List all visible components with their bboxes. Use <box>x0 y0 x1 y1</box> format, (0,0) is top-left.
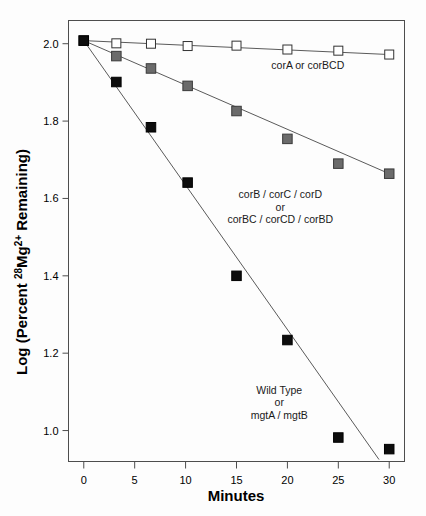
data-point-marker <box>232 41 241 50</box>
chart-figure: 1.01.21.41.61.82.0 051015202530 corA or … <box>0 0 426 516</box>
y-tick-label: 1.8 <box>43 115 58 127</box>
series-annotation-line: or <box>275 396 285 408</box>
data-point-marker <box>112 51 122 61</box>
y-tick-label: 2.0 <box>43 38 58 50</box>
data-point-marker <box>79 36 89 46</box>
series-annotation-line: corA or corBCD <box>271 59 344 71</box>
series-annotation-line: mgtA / mgtB <box>251 409 308 421</box>
data-point-marker <box>232 271 242 281</box>
data-point-marker <box>334 433 344 443</box>
x-axis-ticks: 051015202530 <box>81 462 396 486</box>
data-point-marker <box>183 178 193 188</box>
x-tick-label: 15 <box>230 474 242 486</box>
x-tick-label: 5 <box>132 474 138 486</box>
x-tick-label: 0 <box>81 474 87 486</box>
data-point-marker <box>283 45 292 54</box>
data-point-marker <box>384 169 394 179</box>
data-point-marker <box>146 64 156 74</box>
y-tick-label: 1.0 <box>43 425 58 437</box>
y-tick-label: 1.6 <box>43 192 58 204</box>
data-point-marker <box>183 42 192 51</box>
data-point-marker <box>183 81 193 91</box>
data-point-marker <box>112 77 122 87</box>
series-annotation-line: corB / corC / corD <box>239 188 323 200</box>
y-tick-label: 1.2 <box>43 347 58 359</box>
data-point-marker <box>112 39 121 48</box>
series-annotation-line: or <box>276 201 286 213</box>
data-marker-group <box>79 36 394 454</box>
data-point-marker <box>334 46 343 55</box>
series-annotation-line: corBC / corCD / corBD <box>227 213 333 225</box>
x-tick-label: 30 <box>383 474 395 486</box>
series-annotation-line: Wild Type <box>256 384 302 396</box>
trendline <box>84 41 379 460</box>
data-point-marker <box>146 123 156 133</box>
y-tick-label: 1.4 <box>43 270 58 282</box>
x-axis-title: Minutes <box>208 487 265 504</box>
data-point-marker <box>283 134 293 144</box>
x-tick-label: 20 <box>281 474 293 486</box>
data-point-marker <box>384 444 394 454</box>
trendline-group <box>84 41 389 460</box>
y-axis-ticks: 1.01.21.41.61.82.0 <box>43 38 68 437</box>
data-point-marker <box>334 159 344 169</box>
data-point-marker <box>283 335 293 345</box>
y-axis-title: Log (Percent 28Mg2+ Remaining) <box>13 149 30 375</box>
series-annotation-group: corA or corBCDcorB / corC / corDorcorBC … <box>227 59 344 421</box>
data-point-marker <box>232 106 242 116</box>
data-point-marker <box>146 39 155 48</box>
x-tick-label: 25 <box>332 474 344 486</box>
chart-canvas: 1.01.21.41.61.82.0 051015202530 corA or … <box>0 0 426 516</box>
data-point-marker <box>385 50 394 59</box>
x-tick-label: 10 <box>179 474 191 486</box>
